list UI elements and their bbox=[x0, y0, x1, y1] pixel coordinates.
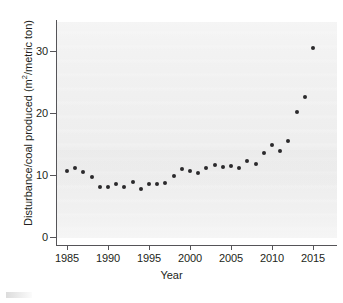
data-point bbox=[188, 169, 192, 173]
data-point bbox=[90, 175, 94, 179]
y-axis-tick bbox=[50, 51, 56, 52]
y-axis-tick bbox=[50, 175, 56, 176]
data-point bbox=[254, 162, 258, 166]
x-axis-tick-label: 2015 bbox=[293, 252, 333, 264]
data-point bbox=[221, 165, 225, 169]
data-point bbox=[65, 169, 69, 173]
data-point bbox=[172, 174, 176, 178]
chart-figure: 0102030 1985199019952000200520102015 Dis… bbox=[0, 0, 343, 303]
x-axis-tick bbox=[190, 245, 191, 250]
data-point bbox=[311, 46, 315, 50]
x-axis-tick bbox=[272, 245, 273, 250]
data-point bbox=[213, 163, 217, 167]
x-axis-tick-label: 2010 bbox=[252, 252, 292, 264]
x-axis-tick-label: 1995 bbox=[129, 252, 169, 264]
x-axis-line bbox=[56, 245, 337, 246]
y-axis-tick bbox=[50, 237, 56, 238]
data-point bbox=[303, 95, 307, 99]
y-axis-tick-label: 30 bbox=[36, 46, 48, 57]
x-axis-tick-label: 2005 bbox=[211, 252, 251, 264]
data-point bbox=[270, 143, 274, 147]
plot-area bbox=[56, 22, 337, 238]
page-edge-smudge bbox=[6, 292, 32, 298]
x-axis-tick-label: 2000 bbox=[170, 252, 210, 264]
data-point bbox=[106, 185, 110, 189]
data-point bbox=[180, 167, 184, 171]
y-axis-title-superscript: 2 bbox=[20, 75, 29, 79]
data-point bbox=[262, 151, 266, 155]
x-axis-tick bbox=[313, 245, 314, 250]
data-point bbox=[155, 182, 159, 186]
x-axis-tick bbox=[67, 245, 68, 250]
x-axis-tick-label: 1990 bbox=[88, 252, 128, 264]
x-axis-tick-label: 1985 bbox=[47, 252, 87, 264]
y-axis-tick-label: 20 bbox=[36, 108, 48, 119]
y-axis-tick-label: 10 bbox=[36, 170, 48, 181]
x-axis-tick bbox=[108, 245, 109, 250]
y-axis-line bbox=[56, 20, 57, 245]
y-axis-tick-label: 0 bbox=[42, 232, 48, 243]
x-axis-tick bbox=[149, 245, 150, 250]
data-point bbox=[131, 180, 135, 184]
y-axis-title: Disturbance/coal produced (m2/metric ton… bbox=[22, 3, 34, 243]
x-axis-tick bbox=[231, 245, 232, 250]
y-axis-tick bbox=[50, 113, 56, 114]
x-axis-title: Year bbox=[0, 269, 343, 281]
